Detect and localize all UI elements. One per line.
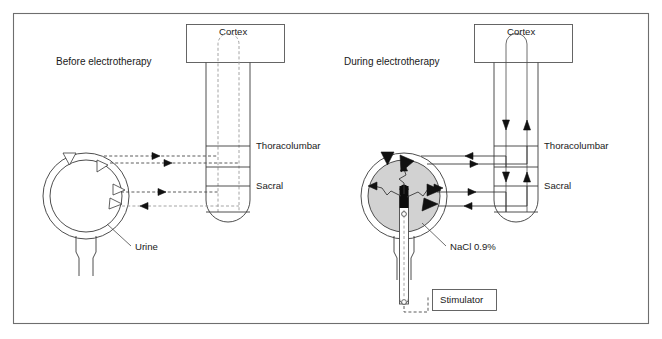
arrowhead-during-3	[468, 189, 476, 196]
spinal-cord-outline-before	[206, 63, 250, 223]
arrowhead-before-2	[164, 160, 172, 167]
urine-label: Urine	[135, 241, 158, 252]
signal-line-during-2	[427, 146, 527, 164]
stimulator-label: Stimulator	[440, 294, 484, 305]
thoracolumbar-label-during: Thoracolumbar	[544, 140, 609, 151]
arrowhead-during-4	[464, 203, 472, 210]
thoracolumbar-label-before: Thoracolumbar	[256, 140, 321, 151]
bladder-inner-wall-before	[50, 160, 122, 232]
panel-during-electrotherapy: During electrotherapy Cortex Thoracolumb…	[344, 25, 609, 313]
signal-line-during-4	[438, 186, 527, 206]
nacl-label: NaCl 0.9%	[450, 241, 496, 252]
urine-leader-line	[107, 224, 131, 246]
panel-before-electrotherapy: Before electrotherapy Cortex Thoracolumb…	[43, 25, 321, 277]
cortex-label-during: Cortex	[507, 26, 535, 37]
cord-arrow-descending-lower	[503, 172, 510, 182]
cord-arrow-ascending-lower	[524, 172, 531, 182]
catheter-end-port	[402, 300, 407, 305]
bladder-neck-before	[76, 236, 96, 276]
arrowhead-before-3	[158, 189, 166, 196]
cord-arrow-ascending-upper	[524, 120, 531, 130]
spinal-cord-outline-during	[494, 63, 538, 223]
electrode-side-port	[402, 212, 407, 217]
sacral-label-before: Sacral	[256, 180, 283, 191]
figure-root: Before electrotherapy Cortex Thoracolumb…	[0, 0, 662, 339]
sacral-label-during: Sacral	[544, 180, 571, 191]
arrowhead-during-2	[470, 161, 478, 168]
arrowhead-before-4	[140, 203, 148, 210]
arrowhead-before-1	[152, 153, 160, 160]
panel-caption-during: During electrotherapy	[344, 56, 440, 67]
diagram-canvas: Before electrotherapy Cortex Thoracolumb…	[0, 0, 662, 339]
arrowhead-during-1	[465, 153, 473, 160]
panel-caption-before: Before electrotherapy	[56, 56, 152, 67]
cord-arrow-descending-upper	[503, 120, 510, 130]
